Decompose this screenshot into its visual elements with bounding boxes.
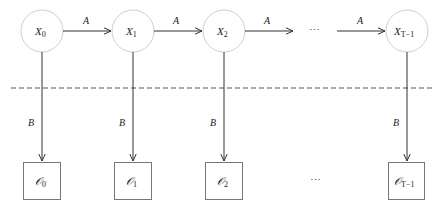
emission-edge-x0: B: [28, 52, 42, 161]
state-node-xT-1: XT−1: [386, 10, 428, 52]
state-node-x1: X1: [112, 10, 154, 52]
observation-node-o0: 𝒪0: [24, 163, 61, 200]
transition-edge-x2-ellipsis: A: [245, 15, 293, 31]
svg-text:B: B: [119, 117, 125, 128]
observation-ellipsis: ⋯: [310, 174, 321, 186]
emission-edge-xT-1: B: [393, 52, 407, 161]
emission-edge-x2: B: [210, 52, 224, 161]
svg-text:B: B: [28, 117, 34, 128]
svg-text:A: A: [356, 15, 364, 26]
observation-node-oT-1: 𝒪T−1: [389, 163, 425, 200]
state-node-x2: X2: [203, 10, 245, 52]
svg-text:A: A: [82, 15, 90, 26]
svg-text:B: B: [393, 117, 399, 128]
transition-edge-ellipsis-xT-1: A: [337, 15, 385, 31]
observation-node-o1: 𝒪1: [115, 163, 152, 200]
svg-text:B: B: [210, 117, 216, 128]
observation-node-o2: 𝒪2: [206, 163, 243, 200]
emission-edge-x1: B: [119, 52, 133, 161]
state-node-x0: X0: [21, 10, 63, 52]
svg-text:A: A: [263, 15, 271, 26]
transition-edge-x0-x1: A: [63, 15, 111, 31]
state-ellipsis: ⋯: [309, 24, 320, 36]
transition-edge-x1-x2: A: [154, 15, 202, 31]
svg-text:A: A: [172, 15, 180, 26]
hmm-diagram: X0 X1 X2 XT−1 A A A ⋯ A B B B: [0, 0, 441, 213]
